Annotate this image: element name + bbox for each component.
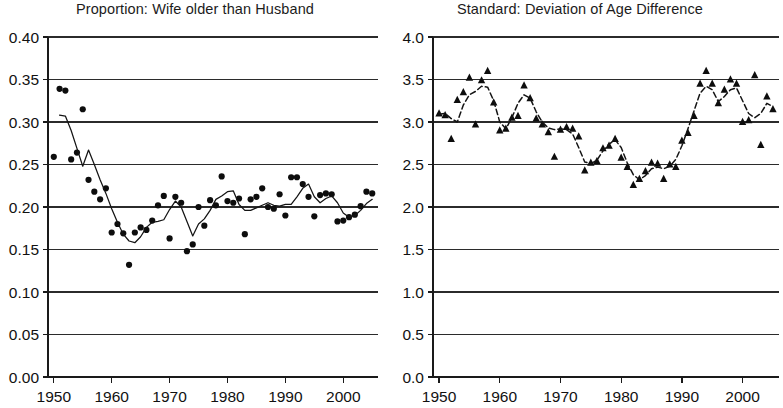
data-point-marker [166,235,172,241]
y-tick-label: 2.5 [402,156,424,173]
data-point-marker [97,196,103,202]
y-tick-label: 2.0 [402,199,424,216]
data-point-marker [466,74,473,81]
data-point-marker [253,194,259,200]
y-tick-label: 1.0 [402,284,424,301]
x-tick-label: 1990 [665,388,700,405]
data-point-marker [138,224,144,230]
data-point-marker [126,262,132,268]
data-point-marker [91,189,97,195]
data-point-marker [317,192,323,198]
data-point-marker [569,125,576,132]
data-point-marker [340,218,346,224]
data-point-marker [224,198,230,204]
data-point-marker [201,223,207,229]
data-point-marker [271,206,277,212]
data-point-marker [369,190,375,196]
y-tick-label: 0.15 [9,241,39,258]
data-point-marker [334,218,340,224]
y-tick-label: 0.05 [9,326,39,343]
data-point-marker [435,109,442,116]
y-tick-label: 0.5 [402,326,424,343]
data-point-marker [441,111,448,118]
data-point-marker [80,106,86,112]
data-point-marker [660,175,667,182]
data-point-marker [593,157,600,164]
x-tick-label: 2000 [725,388,760,405]
y-tick-label: 0.00 [9,369,40,386]
data-point-marker [575,132,582,139]
data-point-marker [190,241,196,247]
y-tick-label: 3.0 [402,114,424,131]
data-point-marker [520,81,527,88]
data-point-marker [230,200,236,206]
data-point-marker [363,189,369,195]
data-point-marker [109,229,115,235]
data-point-marker [56,86,62,92]
x-tick-label: 1980 [210,388,245,405]
data-point-marker [132,229,138,235]
data-point-marker [288,174,294,180]
data-point-marker [496,126,503,133]
data-point-marker [265,204,271,210]
chart-panel-right: Standard: Deviation of Age Difference 0.… [385,0,775,408]
trend-line [60,115,373,243]
data-point-marker [721,86,728,93]
data-point-marker [654,159,661,166]
data-point-marker [454,96,461,103]
data-point-marker [526,94,533,101]
data-point-marker [709,80,716,87]
data-point-marker [769,105,776,112]
data-point-marker [259,185,265,191]
data-point-marker [733,80,740,87]
data-point-marker [448,135,455,142]
data-point-marker [161,193,167,199]
data-point-marker [696,80,703,87]
y-tick-label: 1.5 [402,241,424,258]
x-tick-label: 1980 [604,388,639,405]
data-point-marker [62,87,68,93]
y-tick-label: 0.35 [9,71,39,88]
y-tick-label: 0.20 [9,199,40,216]
y-tick-label: 0.10 [9,284,40,301]
x-tick-label: 1960 [94,388,129,405]
data-point-marker [85,177,91,183]
data-point-marker [172,194,178,200]
data-point-marker [68,156,74,162]
plot-area-left: 0.000.050.100.150.200.250.300.350.401950… [0,0,390,408]
data-point-marker [757,141,764,148]
y-tick-label: 0.25 [9,156,39,173]
x-tick-label: 2000 [326,388,361,405]
data-point-marker [352,212,358,218]
data-point-marker [311,213,317,219]
plot-area-right: 0.00.51.01.52.02.53.03.54.01950196019701… [385,0,775,408]
y-tick-label: 0.40 [9,29,40,46]
data-point-marker [195,204,201,210]
y-tick-label: 3.5 [402,71,424,88]
data-point-marker [642,167,649,174]
y-tick-label: 0.0 [402,369,424,386]
x-tick-label: 1950 [422,388,457,405]
data-point-marker [551,153,558,160]
data-point-marker [702,67,709,74]
data-point-marker [51,154,57,160]
data-point-marker [763,92,770,99]
data-point-marker [751,71,758,78]
data-point-marker [460,88,467,95]
data-point-marker [581,166,588,173]
data-point-marker [745,116,752,123]
data-point-marker [323,190,329,196]
data-point-marker [207,197,213,203]
data-point-marker [484,67,491,74]
y-tick-label: 4.0 [402,29,424,46]
data-point-marker [248,196,254,202]
x-tick-label: 1970 [543,388,578,405]
x-tick-label: 1990 [268,388,303,405]
chart-panel-left: Proportion: Wife older than Husband 0.00… [0,0,390,408]
data-point-marker [514,112,521,119]
x-tick-label: 1970 [152,388,187,405]
data-point-marker [242,231,248,237]
y-tick-label: 0.30 [9,114,40,131]
x-tick-label: 1960 [483,388,518,405]
